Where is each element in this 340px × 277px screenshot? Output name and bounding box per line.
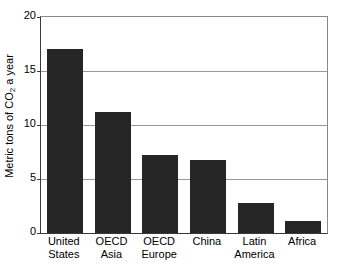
y-axis-tick-mark <box>37 233 41 234</box>
x-axis-tick-label-line: America <box>231 248 279 261</box>
x-axis-tick-label: LatinAmerica <box>231 235 279 261</box>
bar <box>95 112 131 233</box>
x-axis-tick-label-line: China <box>183 235 231 248</box>
plot-area <box>40 16 328 234</box>
y-axis-tick-label: 20 <box>14 10 36 21</box>
x-axis-tick-label-line: Europe <box>135 248 183 261</box>
y-axis-tick-labels: 05101520 <box>0 0 36 277</box>
bar-series <box>41 17 327 233</box>
bar <box>47 49 83 233</box>
y-axis-tick-label: 15 <box>14 64 36 75</box>
x-axis-tick-label: Africa <box>278 235 326 248</box>
x-axis-tick-label-line: United <box>40 235 88 248</box>
y-axis-tick-label: 5 <box>14 172 36 183</box>
x-axis-tick-label-line: Africa <box>278 235 326 248</box>
x-axis-tick-label: China <box>183 235 231 248</box>
chart-figure: Metric tons of CO2 a year 05101520 Unite… <box>0 0 340 277</box>
bar <box>285 221 321 233</box>
x-axis-tick-label-line: Asia <box>88 248 136 261</box>
x-axis-tick-label-line: OECD <box>88 235 136 248</box>
x-axis-tick-label: UnitedStates <box>40 235 88 261</box>
x-axis-tick-label: OECDAsia <box>88 235 136 261</box>
y-axis-tick-label: 0 <box>14 226 36 237</box>
x-axis-tick-label: OECDEurope <box>135 235 183 261</box>
x-axis-tick-labels: UnitedStatesOECDAsiaOECDEuropeChinaLatin… <box>40 235 326 275</box>
bar <box>190 160 226 233</box>
bar <box>238 203 274 233</box>
x-axis-tick-label-line: Latin <box>231 235 279 248</box>
y-axis-tick-label: 10 <box>14 118 36 129</box>
x-axis-tick-label-line: States <box>40 248 88 261</box>
x-axis-tick-label-line: OECD <box>135 235 183 248</box>
bar <box>142 155 178 233</box>
